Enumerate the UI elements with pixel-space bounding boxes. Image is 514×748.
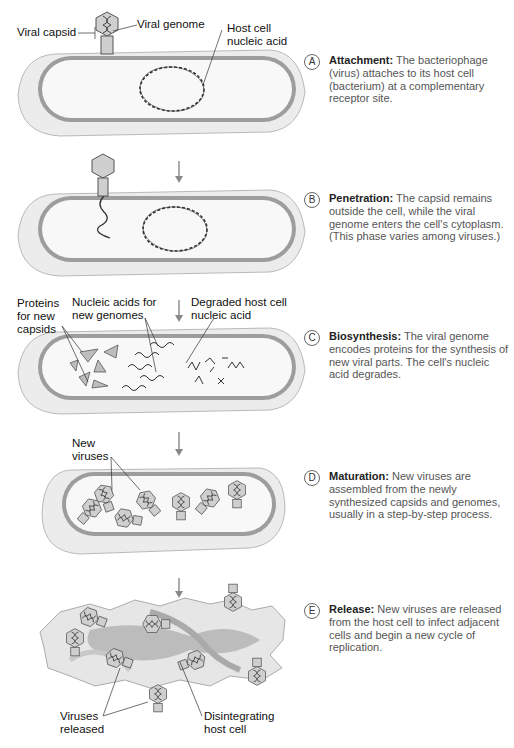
label-viral-genome: Viral genome <box>137 18 205 31</box>
stage-a-virus <box>96 12 118 54</box>
stage-a-cell <box>18 50 305 136</box>
label-new-viruses: New viruses <box>72 437 108 463</box>
stage-c-cell <box>18 328 305 414</box>
arrow-b-to-c <box>175 300 183 322</box>
step-penetration: B Penetration: The capsid remains outsid… <box>304 192 509 243</box>
step-maturation: D Maturation: New viruses are assembled … <box>304 470 509 521</box>
label-viral-capsid: Viral capsid <box>17 26 76 39</box>
step-letter-d: D <box>304 470 320 486</box>
step-biosynthesis: C Biosynthesis: The viral genome encodes… <box>304 330 509 381</box>
label-proteins-for-capsids: Proteins for new capsids <box>17 297 59 336</box>
stage-d-cell <box>42 468 285 554</box>
step-title: Maturation: <box>329 470 389 482</box>
stage-b-virus <box>92 154 114 196</box>
step-title: Attachment: <box>329 54 393 66</box>
step-title: Release: <box>329 603 374 615</box>
step-letter-b: B <box>304 192 320 208</box>
step-title: Penetration: <box>329 192 393 204</box>
label-degraded-host-acid: Degraded host cell nucleic acid <box>191 296 287 322</box>
step-letter-c: C <box>304 330 320 346</box>
arrow-d-to-e <box>175 578 183 598</box>
arrow-c-to-d <box>175 432 183 456</box>
step-letter-e: E <box>304 603 320 619</box>
arrow-a-to-b <box>175 161 183 183</box>
step-letter-a: A <box>304 54 320 70</box>
step-release: E Release: New viruses are released from… <box>304 603 509 654</box>
label-viruses-released: Viruses released <box>60 710 104 736</box>
step-title: Biosynthesis: <box>329 330 401 342</box>
label-host-nucleic-acid: Host cell nucleic acid <box>227 22 287 48</box>
label-nucleic-acids-genomes: Nucleic acids for new genomes <box>72 296 156 322</box>
label-disintegrating-host-cell: Disintegrating host cell <box>204 710 274 736</box>
step-attachment: A Attachment: The bacteriophage (virus) … <box>304 54 509 105</box>
stage-b-cell <box>18 190 305 276</box>
